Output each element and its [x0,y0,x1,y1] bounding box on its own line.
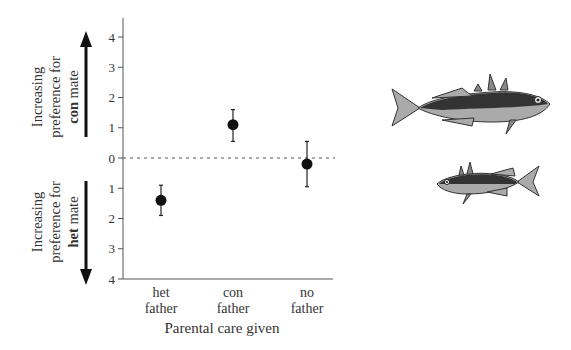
y-tick-label: 4 [109,30,116,45]
x-category-label-line2: father [145,301,178,316]
stickleback-fish-small-icon [437,162,539,204]
lower-label-line1: Increasing [29,192,45,252]
down-arrow-icon [80,181,92,285]
x-category-label-line1: con [223,285,243,300]
y-tick-label: 1 [109,120,116,135]
y-tick-label: 2 [109,211,116,226]
upper-label-bold: con [65,102,81,124]
y-tick-label: 0 [109,151,116,166]
x-category-label-line2: father [291,301,324,316]
y-tick-label: 3 [109,60,116,75]
y-tick-label: 1 [109,181,116,196]
x-category-labels: hetfatherconfathernofather [145,285,324,316]
upper-label-rest: mate [65,70,81,102]
lower-label-line3: het mate [65,196,81,247]
x-category-label-line2: father [217,301,250,316]
lower-label-bold: het [65,228,81,248]
y-tick-label: 2 [109,90,116,105]
upper-label-line1: Increasing [29,67,45,127]
data-points [156,110,313,216]
upper-label-line2: preference for [47,56,63,138]
stickleback-fish-large-icon [392,74,550,134]
lower-label-rest: mate [65,196,81,228]
lower-label-line2: preference for [47,181,63,263]
x-category-label-line1: het [152,285,169,300]
chart: Increasing preference for con mate Incre… [0,0,571,350]
lower-y-label: Increasing preference for het mate [29,181,81,263]
upper-label-line3: con mate [65,70,81,124]
y-ticks: 432101234 [109,30,124,287]
data-point [156,195,167,206]
x-axis-label: Parental care given [165,320,280,336]
y-tick-label: 3 [109,241,116,256]
y-tick-label: 4 [109,272,116,287]
data-point [302,159,313,170]
data-point [228,119,239,130]
upper-y-label: Increasing preference for con mate [29,56,81,138]
x-category-label-line1: no [300,285,314,300]
up-arrow-icon [80,31,92,137]
